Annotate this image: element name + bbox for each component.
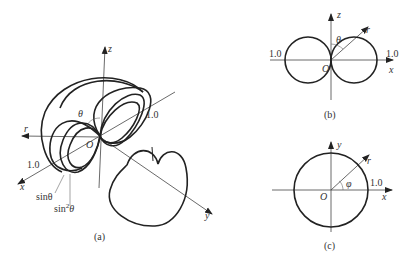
sin2-theta-loop-right [100, 102, 139, 143]
panel-c: y r x O φ 1.0 (c) [272, 139, 392, 252]
z-axis-label-a: z [107, 43, 112, 54]
theta-label-b: θ [336, 34, 341, 45]
z-axis-label-b: z [336, 9, 341, 20]
panel-b: z r x O θ 1.0 1.0 (b) [269, 9, 399, 121]
caption-b: (b) [324, 109, 336, 121]
scale-label-a-2: 1.0 [27, 159, 40, 170]
scale-label-c: 1.0 [370, 177, 383, 188]
r-axis-label-b: r [366, 24, 370, 35]
x-axis-label-c: x [381, 191, 387, 202]
scale-label-b-right: 1.0 [386, 48, 399, 59]
origin-label-a: O [86, 139, 93, 150]
origin-label-c: O [320, 191, 327, 202]
y-axis-label-a: y [204, 210, 210, 221]
sin2-theta-loop-left [68, 128, 100, 168]
scale-label-a-1: 1.0 [146, 109, 159, 120]
theta-label-a: θ [78, 108, 83, 119]
phi-label-c: φ [346, 178, 352, 189]
z-axis-a [99, 47, 105, 188]
x-axis-label-b: x [388, 64, 394, 75]
sin-theta-leader [55, 175, 64, 193]
pattern-tick [152, 147, 153, 161]
horizontal-pattern-curve [109, 151, 187, 226]
caption-a: (a) [94, 231, 105, 243]
y-axis-label-c: y [336, 139, 342, 150]
panel-a: z r x y O θ 1.0 1.0 sinθ sin2θ (a) [18, 43, 212, 243]
radiation-pattern-figure: z r x y O θ 1.0 1.0 sinθ sin2θ (a) z r x… [0, 0, 408, 259]
x-axis-label-a: x [19, 181, 25, 192]
r-axis-label-a: r [24, 123, 28, 134]
origin-label-b: O [322, 63, 329, 74]
caption-c: (c) [324, 240, 335, 252]
r-axis-a [22, 136, 100, 137]
sin2-theta-label: sin2θ [54, 202, 74, 214]
sin-theta-label: sinθ [36, 191, 53, 202]
r-axis-label-c: r [367, 155, 371, 166]
scale-label-b-left: 1.0 [269, 48, 282, 59]
